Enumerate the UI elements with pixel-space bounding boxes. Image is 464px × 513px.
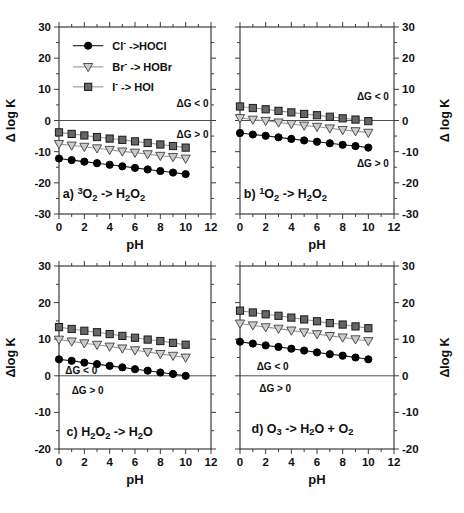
y-tick-label: 0	[45, 370, 51, 382]
triangle-down-marker	[364, 338, 373, 346]
x-tick-label: 6	[314, 221, 320, 233]
square-marker	[169, 339, 176, 346]
y-tick-label: -10	[402, 146, 419, 158]
circle-marker	[352, 142, 359, 149]
circle-marker	[236, 129, 243, 136]
circle-marker	[106, 161, 113, 168]
delta-g-annotation: ΔG < 0	[357, 91, 389, 102]
y-tick-label: 30	[38, 21, 51, 33]
x-tick-label: 2	[81, 456, 87, 468]
chart-canvas: 0246810123020100-10-20-30pHΔ log Ka) 3O2…	[0, 0, 464, 513]
circle-marker	[55, 155, 62, 162]
x-tick-label: 10	[179, 456, 192, 468]
x-tick-label: 0	[56, 221, 62, 233]
x-tick-label: 8	[157, 221, 164, 233]
square-marker	[106, 135, 113, 142]
y-tick-label: -20	[402, 177, 419, 189]
y-axis-label: Δ log K	[438, 99, 452, 143]
x-tick-label: 8	[339, 456, 346, 468]
x-tick-label: 12	[205, 456, 218, 468]
circle-marker	[93, 160, 100, 167]
y-axis-label: Δlog K	[438, 337, 452, 377]
square-marker	[236, 307, 243, 314]
circle-marker	[288, 345, 295, 352]
square-marker	[275, 107, 282, 114]
x-tick-label: 4	[106, 221, 113, 233]
circle-marker	[326, 140, 333, 147]
square-marker	[182, 144, 189, 151]
panel-d: 0246810123020100-10-20pHΔlog Kd) O3 -> H…	[235, 260, 452, 487]
square-marker	[131, 138, 138, 145]
circle-marker	[169, 169, 176, 176]
circle-marker	[339, 141, 346, 148]
panel-title: c) H2O2 -> H2O	[67, 425, 153, 441]
circle-marker	[275, 343, 282, 350]
circle-marker	[365, 356, 372, 363]
legend-label: Cl- ->HOCl	[112, 39, 166, 52]
y-tick-label: 20	[38, 297, 51, 309]
x-tick-label: 12	[205, 221, 218, 233]
panel-b: 0246810123020100-10-20-30pHΔ log Kb) 1O2…	[235, 21, 452, 252]
square-marker	[55, 324, 62, 331]
x-tick-label: 4	[106, 456, 113, 468]
x-tick-label: 2	[262, 221, 268, 233]
circle-marker	[275, 134, 282, 141]
panel-a: 0246810123020100-10-20-30pHΔ log Ka) 3O2…	[4, 21, 217, 252]
circle-marker	[157, 167, 164, 174]
delta-g-annotation: ΔG < 0	[65, 365, 97, 376]
circle-marker	[182, 372, 189, 379]
panel-title: b) 1O2 -> H2O2	[244, 186, 327, 204]
circle-marker	[131, 366, 138, 373]
square-marker	[119, 136, 126, 143]
x-tick-label: 12	[388, 221, 401, 233]
y-tick-label: 30	[402, 21, 415, 33]
circle-marker	[326, 351, 333, 358]
circle-marker	[288, 135, 295, 142]
y-tick-label: -30	[34, 208, 51, 220]
y-tick-label: -10	[34, 406, 51, 418]
y-tick-label: 0	[45, 115, 51, 127]
square-marker	[262, 311, 269, 318]
y-tick-label: 20	[38, 52, 51, 64]
x-axis-label: pH	[308, 472, 325, 487]
circle-marker	[85, 42, 92, 49]
square-marker	[365, 118, 372, 125]
circle-marker	[119, 364, 126, 371]
circle-marker	[262, 342, 269, 349]
square-marker	[55, 129, 62, 136]
delta-g-annotation: ΔG > 0	[72, 385, 104, 396]
x-tick-label: 6	[132, 456, 138, 468]
square-marker	[352, 323, 359, 330]
square-marker	[352, 116, 359, 123]
y-tick-label: -20	[34, 443, 51, 455]
circle-marker	[68, 357, 75, 364]
square-marker	[326, 113, 333, 120]
x-tick-label: 10	[362, 456, 375, 468]
square-marker	[288, 109, 295, 116]
square-marker	[106, 330, 113, 337]
square-marker	[249, 309, 256, 316]
y-axis-label: Δ log K	[4, 99, 18, 143]
y-tick-label: 30	[38, 260, 51, 272]
square-marker	[313, 112, 320, 119]
circle-marker	[55, 356, 62, 363]
circle-marker	[339, 352, 346, 359]
circle-marker	[157, 369, 164, 376]
triangle-down-marker	[181, 155, 190, 163]
halide-oxidation-figure: 0246810123020100-10-20-30pHΔ log Ka) 3O2…	[0, 0, 464, 513]
square-marker	[157, 141, 164, 148]
x-tick-label: 2	[81, 221, 87, 233]
square-marker	[68, 325, 75, 332]
x-axis-label: pH	[126, 237, 143, 252]
x-tick-label: 8	[339, 221, 346, 233]
delta-g-annotation: ΔG > 0	[357, 158, 389, 169]
y-axis-label: Δlog K	[4, 337, 18, 377]
square-marker	[262, 106, 269, 113]
square-marker	[326, 319, 333, 326]
y-tick-label: -30	[402, 208, 419, 220]
y-tick-label: -20	[34, 177, 51, 189]
circle-marker	[68, 156, 75, 163]
circle-marker	[352, 354, 359, 361]
square-marker	[93, 133, 100, 140]
circle-marker	[106, 362, 113, 369]
